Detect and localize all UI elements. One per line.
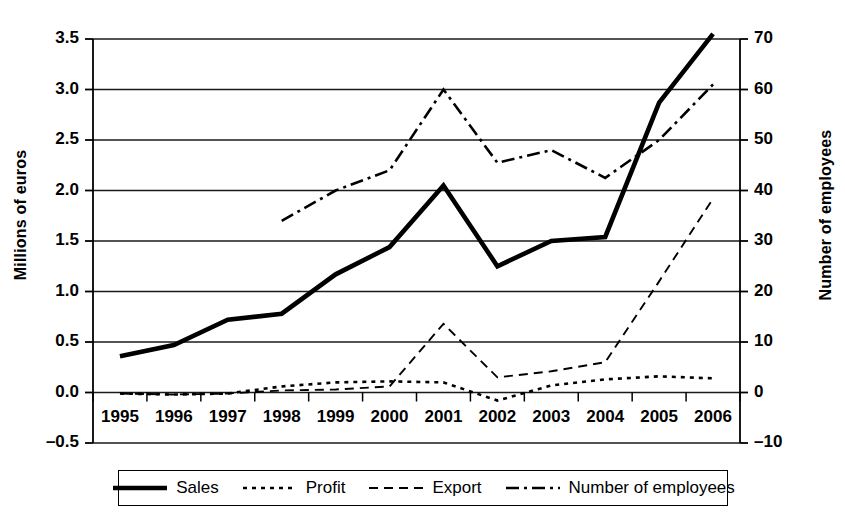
y-tick-label-right: 60 bbox=[754, 79, 814, 99]
series-line-number-of-employees bbox=[282, 84, 713, 220]
y-tick-label-right: 50 bbox=[754, 129, 814, 149]
x-tick-label: 1997 bbox=[201, 407, 255, 427]
legend-label: Profit bbox=[306, 478, 346, 498]
legend-swatch-icon bbox=[111, 481, 169, 495]
legend-item-profit[interactable]: Profit bbox=[230, 478, 357, 498]
y-tick-label-right: 10 bbox=[754, 331, 814, 351]
y-tick-label-left: 0.0 bbox=[23, 382, 79, 402]
chart-legend: SalesProfitExportNumber of employees bbox=[118, 470, 728, 506]
y-tick-label-left: 2.5 bbox=[23, 129, 79, 149]
chart-figure: Millions of euros Number of employees Sa… bbox=[0, 0, 845, 523]
y-tick-label-left: –0.5 bbox=[23, 432, 79, 452]
x-tick-label: 2002 bbox=[470, 407, 524, 427]
x-tick-label: 1995 bbox=[93, 407, 147, 427]
x-tick-label: 1998 bbox=[255, 407, 309, 427]
x-tick-label: 1999 bbox=[309, 407, 363, 427]
x-tick-label: 2001 bbox=[417, 407, 471, 427]
legend-label: Sales bbox=[176, 478, 219, 498]
y-tick-label-left: 1.0 bbox=[23, 281, 79, 301]
legend-item-sales[interactable]: Sales bbox=[100, 478, 230, 498]
y-tick-label-right: –10 bbox=[754, 432, 814, 452]
y-tick-label-right: 70 bbox=[754, 28, 814, 48]
y-tick-label-right: 0 bbox=[754, 382, 814, 402]
legend-swatch-icon bbox=[367, 481, 425, 495]
plot-area bbox=[0, 0, 845, 523]
series-line-export bbox=[120, 199, 713, 395]
legend-swatch-icon bbox=[241, 481, 299, 495]
y-tick-label-right: 40 bbox=[754, 180, 814, 200]
x-tick-label: 2004 bbox=[578, 407, 632, 427]
legend-swatch-icon bbox=[504, 481, 562, 495]
x-tick-label: 1996 bbox=[147, 407, 201, 427]
x-tick-label: 2005 bbox=[632, 407, 686, 427]
legend-item-export[interactable]: Export bbox=[356, 478, 492, 498]
legend-label: Number of employees bbox=[569, 478, 735, 498]
x-tick-label: 2003 bbox=[524, 407, 578, 427]
series-line-sales bbox=[120, 34, 713, 356]
x-tick-label: 2000 bbox=[363, 407, 417, 427]
y-tick-label-right: 20 bbox=[754, 281, 814, 301]
y-tick-label-left: 0.5 bbox=[23, 331, 79, 351]
y-tick-label-right: 30 bbox=[754, 230, 814, 250]
y-tick-label-left: 3.5 bbox=[23, 28, 79, 48]
y-tick-label-left: 3.0 bbox=[23, 79, 79, 99]
x-tick-label: 2006 bbox=[686, 407, 740, 427]
y-tick-label-left: 1.5 bbox=[23, 230, 79, 250]
y-tick-label-left: 2.0 bbox=[23, 180, 79, 200]
legend-label: Export bbox=[432, 478, 481, 498]
legend-item-number-of-employees[interactable]: Number of employees bbox=[493, 478, 746, 498]
